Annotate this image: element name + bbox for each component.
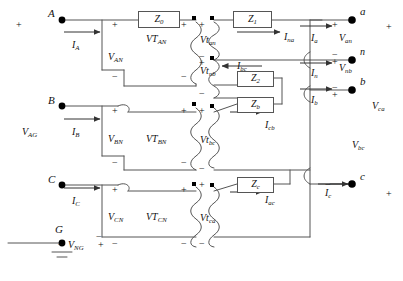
circuit-diagram: A B C G a n b c Z0Z1Z2ZbZc IAIBICInaIbcI… [0, 0, 403, 281]
polarity-mark: + [112, 20, 118, 30]
polarity-mark: + [332, 90, 338, 100]
terminal-label-n: n [360, 47, 365, 57]
polarity-mark: − [181, 72, 187, 82]
winding-vtCN: VTCN [146, 212, 167, 223]
polarity-mark: − [181, 239, 187, 249]
current-ina: Ina [284, 32, 294, 43]
winding-vtan: Vtan [200, 35, 216, 46]
polarity-mark: + [112, 185, 118, 195]
voltage-vca: Vca [372, 101, 385, 112]
current-ib: Ib [311, 95, 318, 106]
polarity-mark: + [199, 20, 205, 30]
impedance-zb: Zb [237, 97, 274, 113]
current-in: In [311, 68, 318, 79]
voltage-vBN: VBN [108, 134, 123, 145]
polarity-mark: − [325, 180, 331, 190]
current-ia: Ia [311, 33, 318, 44]
current-iA: IA [72, 40, 80, 51]
terminal-label-C: C [48, 174, 55, 185]
polarity-mark: + [181, 20, 187, 30]
current-ibc: Ibc [237, 61, 247, 72]
polarity-mark: + [332, 57, 338, 67]
polarity-mark: − [58, 240, 64, 250]
impedance-zc: Zc [237, 177, 274, 193]
current-iac: Iac [265, 195, 275, 206]
polarity-mark: − [112, 158, 118, 168]
terminal-label-G: G [55, 224, 63, 235]
voltage-vCN: VCN [108, 212, 123, 223]
impedance-z1: Z1 [233, 11, 272, 28]
terminal-label-c: c [360, 171, 365, 182]
polarity-mark: − [199, 239, 205, 249]
current-iB: IB [72, 127, 80, 138]
voltage-vAG: VAG [22, 127, 37, 138]
winding-vtca: Vtca [200, 213, 215, 224]
impedance-z2: Z2 [237, 71, 274, 87]
winding-vtAN: VTAN [146, 34, 166, 45]
voltage-vAN: VAN [108, 52, 123, 63]
terminal-label-b: b [360, 76, 366, 87]
terminal-label-a: a [360, 6, 366, 17]
voltage-vbc: Vbc [352, 140, 365, 151]
polarity-mark: − [112, 239, 118, 249]
winding-vtBN: VTBN [146, 134, 166, 145]
polarity-mark: + [199, 58, 205, 68]
polarity-mark: + [199, 106, 205, 116]
current-icb: Icb [265, 120, 275, 131]
polarity-mark: + [98, 240, 104, 250]
terminal-label-A: A [48, 8, 55, 19]
winding-vtbc: Vtbc [200, 135, 215, 146]
impedance-z0: Z0 [138, 11, 180, 28]
polarity-mark: − [199, 89, 205, 99]
voltage-vnb: Vnb [339, 63, 352, 74]
polarity-mark: + [112, 106, 118, 116]
polarity-mark: + [386, 22, 392, 32]
polarity-mark: + [16, 20, 22, 30]
polarity-mark: + [181, 185, 187, 195]
polarity-mark: + [332, 20, 338, 30]
polarity-mark: + [199, 180, 205, 190]
polarity-mark: − [112, 72, 118, 82]
current-iC: IC [72, 196, 80, 207]
polarity-mark: + [181, 106, 187, 116]
voltage-vNG: VNG [68, 240, 84, 251]
polarity-mark: − [199, 164, 205, 174]
polarity-mark: − [181, 158, 187, 168]
terminal-label-B: B [48, 95, 55, 106]
voltage-van: Van [339, 33, 352, 44]
polarity-mark: + [386, 189, 392, 199]
